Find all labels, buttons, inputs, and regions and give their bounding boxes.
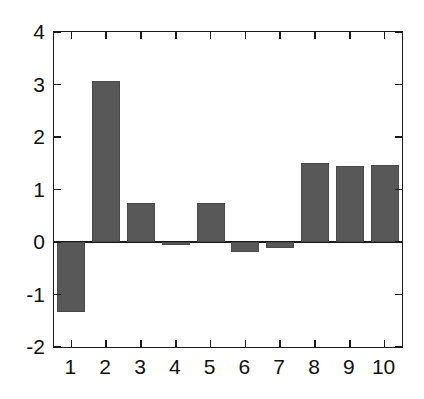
x-axis-tick-label: 10 bbox=[372, 356, 395, 377]
y-axis-tick bbox=[54, 241, 61, 243]
x-axis-tick bbox=[384, 340, 386, 347]
y-axis-tick-label: 0 bbox=[33, 231, 45, 252]
x-axis-tick-label: 5 bbox=[204, 356, 216, 377]
y-axis-tick bbox=[54, 31, 61, 33]
y-axis-tick-right bbox=[395, 31, 402, 33]
bar bbox=[301, 163, 329, 242]
bar bbox=[371, 165, 399, 242]
y-axis-tick-right bbox=[395, 136, 402, 138]
y-axis-tick bbox=[54, 189, 61, 191]
y-axis-tick-right bbox=[395, 294, 402, 296]
bar bbox=[197, 203, 225, 242]
y-axis-tick-label: 4 bbox=[33, 21, 45, 42]
x-axis-tick-label: 4 bbox=[169, 356, 181, 377]
y-axis-tick-right bbox=[395, 189, 402, 191]
x-axis-tick bbox=[105, 340, 107, 347]
x-axis-tick-top bbox=[384, 32, 386, 39]
x-axis-tick-top bbox=[349, 32, 351, 39]
x-axis-tick-top bbox=[314, 32, 316, 39]
x-axis-tick-top bbox=[210, 32, 212, 39]
y-axis-tick-right bbox=[395, 241, 402, 243]
bar bbox=[266, 242, 294, 248]
y-axis-tick bbox=[54, 84, 61, 86]
bar bbox=[162, 242, 190, 245]
x-axis-tick-label: 7 bbox=[273, 356, 285, 377]
y-axis-tick-right bbox=[395, 346, 402, 348]
x-axis-tick-top bbox=[175, 32, 177, 39]
x-axis-tick-label: 3 bbox=[134, 356, 146, 377]
y-axis-tick-label: 1 bbox=[33, 178, 45, 199]
x-axis-tick-top bbox=[245, 32, 247, 39]
x-axis-tick-labels: 12345678910 bbox=[53, 356, 403, 386]
bar bbox=[57, 242, 85, 312]
x-axis-tick-label: 8 bbox=[308, 356, 320, 377]
y-axis-tick bbox=[54, 136, 61, 138]
bars-layer bbox=[54, 32, 402, 347]
x-axis-tick bbox=[245, 340, 247, 347]
y-axis-tick-label: -1 bbox=[26, 283, 45, 304]
x-axis-tick bbox=[314, 340, 316, 347]
y-axis-tick-labels: 43210-1-2 bbox=[0, 31, 45, 348]
x-axis-tick-top bbox=[105, 32, 107, 39]
y-axis-tick-label: 3 bbox=[33, 73, 45, 94]
bar bbox=[92, 81, 120, 242]
x-axis-tick-label: 9 bbox=[343, 356, 355, 377]
x-axis-tick bbox=[349, 340, 351, 347]
bar bbox=[231, 242, 259, 252]
x-axis-tick-label: 2 bbox=[99, 356, 111, 377]
bar bbox=[127, 203, 155, 242]
x-axis-tick-label: 6 bbox=[239, 356, 251, 377]
y-axis-tick-right bbox=[395, 84, 402, 86]
x-axis-tick-top bbox=[279, 32, 281, 39]
y-axis-tick-label: 2 bbox=[33, 126, 45, 147]
x-axis-tick bbox=[175, 340, 177, 347]
x-axis-tick bbox=[71, 340, 73, 347]
x-axis-tick-top bbox=[71, 32, 73, 39]
bar-chart-figure: 43210-1-2 12345678910 bbox=[0, 0, 424, 399]
y-axis-tick bbox=[54, 346, 61, 348]
x-axis-tick-top bbox=[140, 32, 142, 39]
x-axis-tick bbox=[140, 340, 142, 347]
bar bbox=[336, 166, 364, 242]
x-axis-tick bbox=[210, 340, 212, 347]
x-axis-tick bbox=[279, 340, 281, 347]
y-axis-tick bbox=[54, 294, 61, 296]
y-axis-tick-label: -2 bbox=[26, 336, 45, 357]
plot-area bbox=[53, 31, 403, 348]
x-axis-tick-label: 1 bbox=[65, 356, 77, 377]
